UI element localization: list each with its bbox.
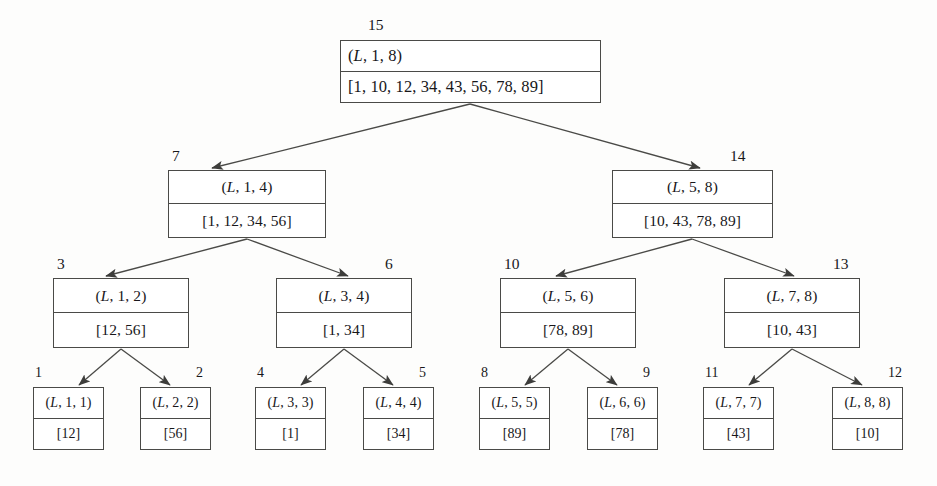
node-index-label-9: 9 [643, 366, 650, 380]
tree-node-5[interactable]: (L, 4, 4)[34] [363, 387, 434, 450]
node-index-label-11: 11 [705, 366, 718, 380]
node-header: (L, 5, 8) [613, 171, 772, 204]
tree-node-6[interactable]: (L, 3, 4)[1, 34] [276, 278, 412, 348]
node-header: (L, 1, 8) [341, 41, 600, 72]
node-values: [10, 43] [725, 313, 859, 347]
node-header: (L, 5, 6) [501, 279, 635, 313]
node-values: [1, 10, 12, 34, 43, 56, 78, 89] [341, 72, 600, 103]
tree-edge-n13-to-n12 [792, 349, 862, 385]
node-index-label-7: 7 [172, 148, 180, 164]
node-values: [10] [833, 419, 902, 450]
tree-edge-n10-to-n9 [568, 349, 617, 385]
node-values: [1] [256, 419, 325, 450]
node-values: [34] [364, 419, 433, 450]
tree-edge-n6-to-n4 [301, 349, 344, 385]
tree-edge-n3-to-n2 [121, 349, 170, 385]
node-values: [89] [480, 419, 549, 450]
tree-node-14[interactable]: (L, 5, 8)[10, 43, 78, 89] [612, 170, 773, 238]
node-header: (L, 8, 8) [833, 388, 902, 419]
tree-node-2[interactable]: (L, 2, 2)[56] [140, 387, 211, 450]
node-header: (L, 7, 7) [704, 388, 773, 419]
node-header: (L, 1, 4) [169, 171, 325, 204]
tree-edge-n7-to-n6 [247, 239, 348, 276]
node-values: [56] [141, 419, 210, 450]
tree-diagram-canvas: (L, 1, 8)[1, 10, 12, 34, 43, 56, 78, 89]… [0, 0, 937, 486]
node-header: (L, 1, 2) [54, 279, 188, 313]
node-values: [12, 56] [54, 313, 188, 347]
node-header: (L, 2, 2) [141, 388, 210, 419]
tree-node-1[interactable]: (L, 1, 1)[12] [33, 387, 104, 450]
node-index-label-4: 4 [257, 366, 264, 380]
node-index-label-13: 13 [833, 256, 849, 272]
tree-edge-n7-to-n3 [106, 239, 247, 276]
tree-edge-n13-to-n11 [749, 349, 792, 385]
node-index-label-10: 10 [504, 256, 520, 272]
node-index-label-8: 8 [481, 366, 488, 380]
node-index-label-6: 6 [385, 256, 393, 272]
tree-edge-n15-to-n7 [212, 104, 470, 168]
node-index-label-3: 3 [57, 256, 65, 272]
tree-edge-n3-to-n1 [79, 349, 121, 385]
node-header: (L, 3, 4) [277, 279, 411, 313]
tree-node-11[interactable]: (L, 7, 7)[43] [703, 387, 774, 450]
node-values: [43] [704, 419, 773, 450]
tree-node-7[interactable]: (L, 1, 4)[1, 12, 34, 56] [168, 170, 326, 238]
node-index-label-5: 5 [419, 366, 426, 380]
node-header: (L, 6, 6) [588, 388, 657, 419]
node-values: [1, 12, 34, 56] [169, 204, 325, 237]
node-values: [12] [34, 419, 103, 450]
node-header: (L, 3, 3) [256, 388, 325, 419]
node-index-label-14: 14 [730, 148, 746, 164]
node-header: (L, 7, 8) [725, 279, 859, 313]
tree-edge-n10-to-n8 [525, 349, 568, 385]
tree-node-3[interactable]: (L, 1, 2)[12, 56] [53, 278, 189, 348]
node-index-label-1: 1 [35, 366, 42, 380]
node-values: [1, 34] [277, 313, 411, 347]
tree-node-9[interactable]: (L, 6, 6)[78] [587, 387, 658, 450]
tree-node-12[interactable]: (L, 8, 8)[10] [832, 387, 903, 450]
node-header: (L, 1, 1) [34, 388, 103, 419]
tree-node-10[interactable]: (L, 5, 6)[78, 89] [500, 278, 636, 348]
tree-node-13[interactable]: (L, 7, 8)[10, 43] [724, 278, 860, 348]
node-values: [10, 43, 78, 89] [613, 204, 772, 237]
node-index-label-2: 2 [196, 366, 203, 380]
node-header: (L, 5, 5) [480, 388, 549, 419]
tree-edge-n14-to-n10 [556, 239, 692, 276]
tree-node-15[interactable]: (L, 1, 8)[1, 10, 12, 34, 43, 56, 78, 89] [340, 40, 601, 103]
node-values: [78] [588, 419, 657, 450]
tree-node-8[interactable]: (L, 5, 5)[89] [479, 387, 550, 450]
tree-edge-n14-to-n13 [692, 239, 794, 276]
node-values: [78, 89] [501, 313, 635, 347]
tree-edge-n15-to-n14 [470, 104, 700, 168]
node-header: (L, 4, 4) [364, 388, 433, 419]
tree-edge-n6-to-n5 [344, 349, 393, 385]
tree-node-4[interactable]: (L, 3, 3)[1] [255, 387, 326, 450]
node-index-label-12: 12 [888, 366, 902, 380]
node-index-label-15: 15 [368, 17, 384, 33]
